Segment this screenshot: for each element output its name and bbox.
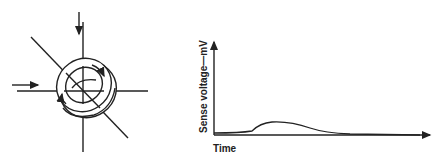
sense-voltage-chart: Sense voltage—mV Time [198, 40, 430, 154]
sense-voltage-curve [214, 122, 420, 135]
magnetic-core-diagram [12, 12, 148, 152]
toroid-core-icon [46, 48, 127, 129]
figure-canvas: Sense voltage—mV Time [0, 0, 443, 163]
x-axis-label: Time [213, 143, 237, 154]
y-axis-label: Sense voltage—mV [198, 40, 209, 133]
